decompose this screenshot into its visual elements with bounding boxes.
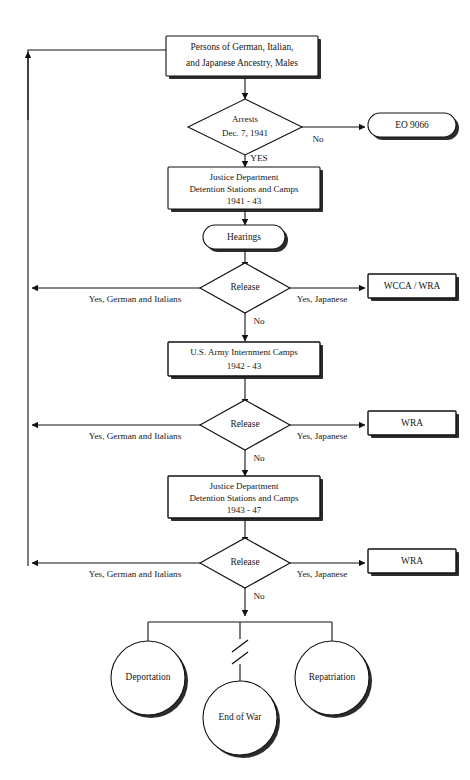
- node-justice1-line1: Justice Department: [209, 172, 279, 182]
- node-justice1-line2: Detention Stations and Camps: [189, 184, 299, 194]
- node-justice1: Justice Department Detention Stations an…: [168, 167, 323, 212]
- node-arrests-line1: Arrests: [232, 114, 258, 124]
- node-hearings: Hearings: [203, 225, 288, 252]
- break-slash-upper: [232, 640, 248, 652]
- edge-label-arrests-yes: YES: [250, 153, 267, 163]
- node-end-of-war: End of War: [203, 681, 280, 758]
- node-release3-label: Release: [230, 557, 259, 567]
- node-wra3-label: WRA: [401, 556, 423, 566]
- node-release2-label: Release: [230, 419, 259, 429]
- node-wcca-wra-label: WCCA / WRA: [384, 281, 441, 291]
- node-justice2: Justice Department Detention Stations an…: [168, 476, 323, 521]
- node-release3: Release: [200, 538, 290, 588]
- node-justice1-line3: 1941 - 43: [227, 196, 262, 206]
- node-arrests: Arrests Dec. 7, 1941: [188, 99, 302, 155]
- edge-label-release2-left: Yes, German and Italians: [89, 431, 182, 441]
- node-hearings-label: Hearings: [227, 232, 261, 242]
- edge-label-release2-right: Yes, Japanese: [297, 431, 348, 441]
- node-deportation: Deportation: [111, 641, 188, 718]
- edge-label-release1-left: Yes, German and Italians: [89, 294, 182, 304]
- node-eo9066-label: EO 9066: [395, 120, 429, 130]
- node-arrests-line2: Dec. 7, 1941: [222, 128, 268, 138]
- edge-label-release3-left: Yes, German and Italians: [89, 569, 182, 579]
- node-justice2-line1: Justice Department: [209, 481, 279, 491]
- flowchart-svg: Persons of German, Italian, and Japanese…: [0, 0, 470, 780]
- node-wra2: WRA: [368, 411, 459, 438]
- node-eo9066: EO 9066: [368, 113, 459, 140]
- edge-label-release1-right: Yes, Japanese: [297, 294, 348, 304]
- node-army-line1: U.S. Army Internment Camps: [190, 347, 298, 357]
- node-origin-line1: Persons of German, Italian,: [191, 42, 294, 52]
- node-wra2-label: WRA: [401, 418, 423, 428]
- edge-label-arrests-no: No: [312, 134, 324, 144]
- edge-label-release3-down: No: [253, 591, 265, 601]
- edge-label-release2-down: No: [253, 453, 265, 463]
- node-repatriation: Repatriation: [295, 641, 372, 718]
- node-release1-label: Release: [230, 282, 259, 292]
- node-justice2-line3: 1943 - 47: [227, 505, 262, 515]
- flowchart-canvas: Persons of German, Italian, and Japanese…: [0, 0, 470, 780]
- edge-feedback-rail: [28, 50, 166, 566]
- node-release1: Release: [200, 263, 290, 313]
- node-repatriation-label: Repatriation: [309, 672, 356, 682]
- node-end-of-war-label: End of War: [219, 712, 263, 722]
- node-wcca-wra: WCCA / WRA: [368, 274, 459, 301]
- node-justice2-line2: Detention Stations and Camps: [189, 493, 299, 503]
- node-origin: Persons of German, Italian, and Japanese…: [166, 36, 321, 79]
- node-army-line2: 1942 - 43: [227, 361, 262, 371]
- node-wra3: WRA: [368, 549, 459, 576]
- edge-label-release1-down: No: [253, 316, 265, 326]
- node-army: U.S. Army Internment Camps 1942 - 43: [168, 342, 323, 379]
- edge-label-release3-right: Yes, Japanese: [297, 569, 348, 579]
- node-origin-line2: and Japanese Ancestry, Males: [186, 58, 298, 68]
- break-slash-lower: [232, 652, 248, 664]
- node-deportation-label: Deportation: [126, 672, 171, 682]
- node-release2: Release: [200, 400, 290, 450]
